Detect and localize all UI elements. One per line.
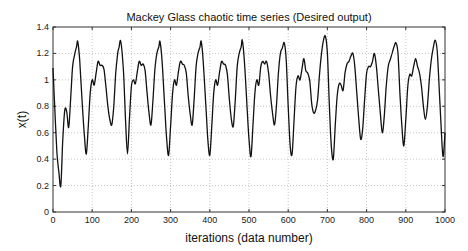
y-tick-label: 1.4 xyxy=(36,22,49,32)
x-tick-label: 400 xyxy=(202,215,217,225)
y-tick-label: 1.2 xyxy=(36,48,49,58)
y-tick-label: 0.8 xyxy=(36,101,49,111)
chart-title: Mackey Glass chaotic time series (Desire… xyxy=(126,11,371,23)
y-tick-label: 0.6 xyxy=(36,128,49,138)
x-tick-label: 700 xyxy=(320,215,335,225)
x-tick-label: 900 xyxy=(398,215,413,225)
x-tick-label: 300 xyxy=(163,215,178,225)
y-tick-label: 0.2 xyxy=(36,181,49,191)
x-tick-label: 800 xyxy=(359,215,374,225)
y-tick-label: 0 xyxy=(44,207,49,217)
x-tick-label: 200 xyxy=(124,215,139,225)
x-tick-label: 100 xyxy=(85,215,100,225)
y-tick-label: 1 xyxy=(44,75,49,85)
x-tick-label: 1000 xyxy=(435,215,455,225)
y-axis-label: x(t) xyxy=(15,111,29,128)
mackey-glass-chart: Mackey Glass chaotic time series (Desire… xyxy=(0,0,468,251)
grid-lines xyxy=(53,27,445,212)
x-tick-label: 600 xyxy=(281,215,296,225)
y-tick-label: 0.4 xyxy=(36,154,49,164)
x-tick-label: 0 xyxy=(50,215,55,225)
x-tick-label: 500 xyxy=(241,215,256,225)
x-axis-label: iterations (data number) xyxy=(185,231,312,245)
